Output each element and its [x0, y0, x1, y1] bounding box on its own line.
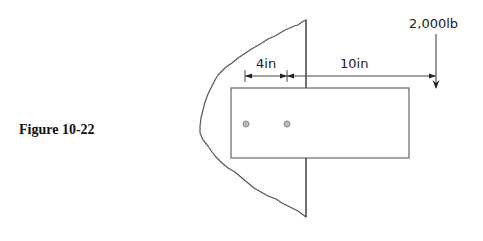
dimension-10in-label: 10in: [340, 56, 368, 71]
dimension-10in: 10in: [306, 56, 436, 79]
plate: [231, 88, 409, 158]
dimension-4in: 4in: [245, 56, 306, 82]
load-arrow: 2,000lb: [409, 16, 458, 89]
bolt-1: [243, 121, 249, 127]
dimension-4in-label: 4in: [256, 56, 276, 71]
load-label: 2,000lb: [409, 16, 458, 31]
bracket-diagram: 4in 10in 2,000lb: [0, 0, 483, 241]
bolt-2: [284, 121, 290, 127]
